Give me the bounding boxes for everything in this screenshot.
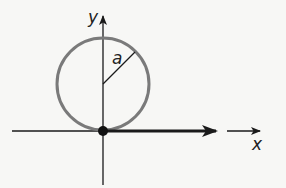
diagram-canvas: y a x <box>0 0 286 188</box>
origin-point <box>98 126 108 136</box>
x-axis-label: x <box>251 134 263 154</box>
y-axis-label: y <box>87 7 99 27</box>
radius-label: a <box>112 48 122 68</box>
